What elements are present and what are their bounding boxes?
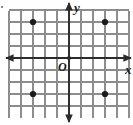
- coordinate-grid-figure: y x O: [0, 0, 133, 125]
- y-axis-label: y: [74, 1, 80, 14]
- data-point: [102, 19, 108, 25]
- data-point: [102, 91, 108, 97]
- x-axis-label: x: [125, 63, 132, 76]
- origin-point: [67, 56, 71, 60]
- axes-group: [6, 3, 131, 122]
- data-point: [30, 91, 36, 97]
- origin-label: O: [58, 61, 67, 73]
- data-point: [30, 19, 36, 25]
